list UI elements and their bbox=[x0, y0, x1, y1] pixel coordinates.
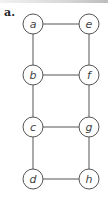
edges bbox=[33, 24, 89, 179]
node-label: e bbox=[86, 18, 93, 31]
node-g: g bbox=[79, 117, 99, 137]
graph-diagram: aebfcgdh bbox=[0, 0, 108, 203]
node-label: g bbox=[86, 121, 93, 134]
node-f: f bbox=[79, 65, 99, 85]
node-label: h bbox=[86, 173, 93, 186]
node-b: b bbox=[23, 65, 43, 85]
node-d: d bbox=[23, 169, 43, 189]
node-h: h bbox=[79, 169, 99, 189]
node-c: c bbox=[23, 117, 43, 137]
node-label: a bbox=[30, 18, 37, 31]
nodes: aebfcgdh bbox=[23, 14, 99, 189]
node-a: a bbox=[23, 14, 43, 34]
node-e: e bbox=[79, 14, 99, 34]
node-label: b bbox=[30, 69, 37, 82]
node-label: c bbox=[30, 121, 36, 134]
node-label: d bbox=[30, 173, 38, 186]
